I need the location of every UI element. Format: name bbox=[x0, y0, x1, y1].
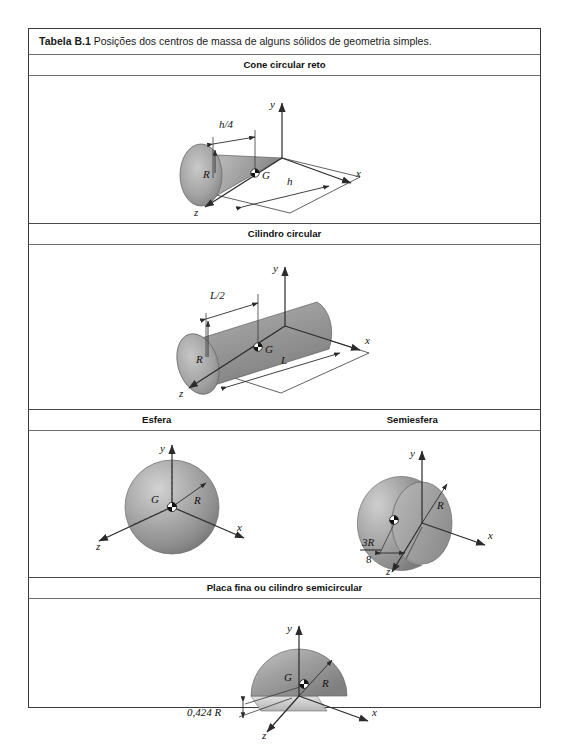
cone-axis-label-y: y bbox=[269, 98, 275, 110]
plate-radius-label: R bbox=[321, 677, 329, 689]
table-caption-text: Posições dos centros de massa de alguns … bbox=[94, 35, 432, 47]
section-title-hemisphere: Semiesfera bbox=[285, 410, 541, 430]
figure-row-cylinder: y x z L/2 R G L bbox=[29, 245, 540, 410]
cone-dimension-h-over-4: h/4 bbox=[219, 118, 234, 130]
hemisphere-radius-label: R bbox=[436, 499, 444, 511]
sphere-radius-label: R bbox=[193, 494, 201, 506]
sphere-centroid-marker bbox=[167, 502, 176, 511]
cylinder-radius-label: R bbox=[195, 353, 203, 365]
figure-row-sphere-hemisphere: y x z R G bbox=[29, 431, 540, 578]
cone-radius-label: R bbox=[202, 168, 210, 180]
section-header-sphere-hemisphere: Esfera Semiesfera bbox=[29, 410, 540, 431]
cone-centroid-label: G bbox=[262, 169, 270, 181]
plate-centroid-marker bbox=[300, 680, 309, 689]
hemisphere-distance-numerator: 3R bbox=[361, 536, 375, 548]
cylinder-diagram: y x z L/2 R G L bbox=[29, 245, 538, 409]
cone-height-label: h bbox=[287, 175, 293, 187]
plate-diagram: y x z R G 0,424 R bbox=[29, 599, 538, 744]
sphere-hemisphere-diagram: y x z R G bbox=[29, 431, 538, 577]
hemisphere-axis-label-z: z bbox=[385, 565, 391, 577]
cone-centroid-marker bbox=[251, 169, 259, 177]
plate-axis-label-z: z bbox=[261, 729, 267, 741]
cone-axis-label-x: x bbox=[355, 167, 361, 179]
cylinder-axis-label-y: y bbox=[272, 262, 278, 274]
figure-row-plate: y x z R G 0,424 R bbox=[29, 599, 540, 744]
sphere-centroid-label: G bbox=[151, 493, 159, 505]
cylinder-centroid-label: G bbox=[265, 343, 273, 355]
cylinder-axis-label-x: x bbox=[364, 334, 370, 346]
section-header-cylinder: Cilindro circular bbox=[29, 224, 540, 245]
cone-axis-label-z: z bbox=[193, 206, 199, 218]
sphere-figure: y x z R G bbox=[95, 442, 244, 554]
section-title-plate: Placa fina ou cilindro semicircular bbox=[207, 582, 363, 593]
table-caption-number: Tabela B.1 bbox=[39, 35, 91, 47]
cylinder-centroid-marker bbox=[254, 343, 262, 351]
sphere-axis-label-y: y bbox=[159, 442, 165, 454]
table-b1: Tabela B.1 Posições dos centros de massa… bbox=[28, 28, 541, 708]
hemisphere-distance-denominator: 8 bbox=[366, 553, 372, 565]
cylinder-dimension-l-over-2: L/2 bbox=[209, 289, 225, 301]
cylinder-axis-label-z: z bbox=[178, 387, 184, 399]
plate-axis-label-x: x bbox=[371, 706, 377, 718]
sphere-axis-label-x: x bbox=[236, 521, 242, 533]
plate-centroid-distance: 0,424 R bbox=[187, 706, 222, 718]
section-title-cone: Cone circular reto bbox=[243, 59, 325, 70]
hemisphere-axis-label-x: x bbox=[487, 529, 493, 541]
plate-axis-label-y: y bbox=[286, 622, 292, 634]
figure-row-cone: y x z h/4 R G h bbox=[29, 76, 540, 224]
sphere-axis-label-z: z bbox=[95, 540, 101, 552]
plate-centroid-label: G bbox=[284, 671, 292, 683]
table-caption: Tabela B.1 Posições dos centros de massa… bbox=[29, 29, 540, 55]
section-header-plate: Placa fina ou cilindro semicircular bbox=[29, 578, 540, 599]
section-title-cylinder: Cilindro circular bbox=[248, 228, 322, 239]
section-title-sphere: Esfera bbox=[29, 410, 285, 430]
document-page: Tabela B.1 Posições dos centros de massa… bbox=[0, 0, 571, 748]
hemisphere-figure: y x z R 3 bbox=[357, 447, 493, 577]
cone-diagram: y x z h/4 R G h bbox=[29, 76, 538, 223]
cylinder-length-label: L bbox=[280, 354, 287, 366]
section-header-cone: Cone circular reto bbox=[29, 55, 540, 76]
hemisphere-axis-label-y: y bbox=[409, 447, 415, 459]
hemisphere-centroid-marker bbox=[390, 516, 399, 525]
